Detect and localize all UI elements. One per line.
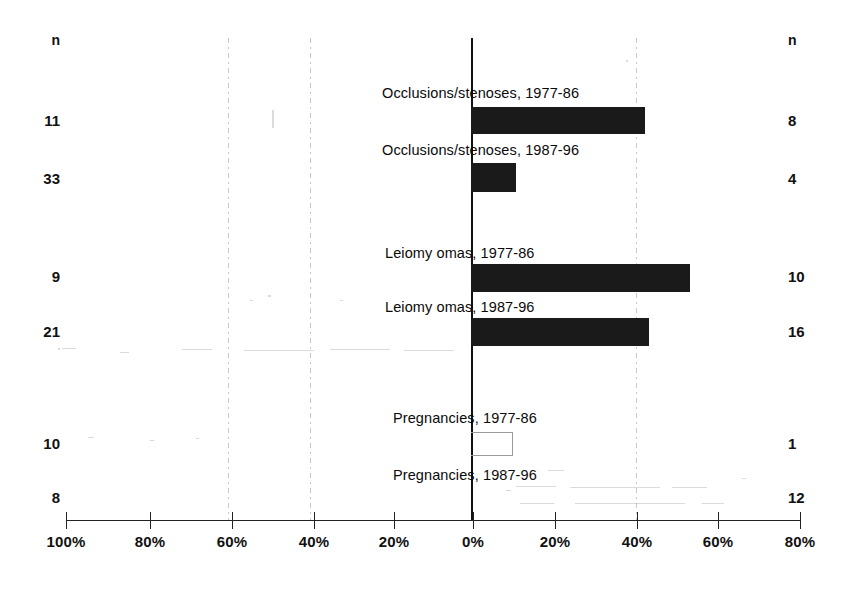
x-tick-label-40-right: 40% — [602, 533, 672, 550]
x-tick-label-0: 0% — [438, 533, 508, 550]
x-tick-20-right — [555, 512, 556, 529]
chart-figure: n n Occlusions/stenoses, 1977-86 11 8 Oc… — [0, 0, 848, 593]
bar-occlusions-1977-86 — [471, 107, 645, 134]
x-tick-label-20-left: 20% — [359, 533, 429, 550]
x-tick-40-left — [314, 512, 315, 529]
plot-area: n n Occlusions/stenoses, 1977-86 11 8 Oc… — [0, 0, 848, 593]
x-tick-label-100-left: 100% — [31, 533, 101, 550]
n-left-leiomyomas-1987-96: 21 — [0, 323, 60, 340]
n-right-pregnancies-1977-86: 1 — [788, 435, 848, 452]
x-tick-80-right — [800, 512, 801, 529]
n-left-pregnancies-1977-86: 10 — [0, 435, 60, 452]
bar-label-pregnancies-1987-96: Pregnancies, 1987-96 — [393, 467, 537, 483]
n-right-leiomyomas-1987-96: 16 — [788, 323, 848, 340]
x-tick-label-60-right: 60% — [683, 533, 753, 550]
n-left-occlusions-1987-96: 33 — [0, 170, 60, 187]
bar-leiomyomas-1977-86 — [471, 264, 690, 292]
bar-label-occlusions-1987-96: Occlusions/stenoses, 1987-96 — [382, 142, 579, 158]
n-right-leiomyomas-1977-86: 10 — [788, 268, 848, 285]
x-tick-40-right — [637, 512, 638, 529]
x-tick-60-right — [718, 512, 719, 529]
bar-pregnancies-1977-86 — [471, 432, 513, 456]
bar-label-leiomyomas-1987-96: Leiomy omas, 1987-96 — [385, 299, 535, 315]
n-right-occlusions-1977-86: 8 — [788, 112, 848, 129]
x-tick-label-20-right: 20% — [520, 533, 590, 550]
x-tick-label-60-left: 60% — [197, 533, 267, 550]
bar-label-occlusions-1977-86: Occlusions/stenoses, 1977-86 — [382, 85, 579, 101]
x-tick-100-left — [66, 512, 67, 529]
x-tick-label-80-left: 80% — [115, 533, 185, 550]
n-column-header-left: n — [0, 32, 60, 48]
bar-occlusions-1987-96 — [471, 163, 516, 192]
gridline-40-left — [310, 38, 311, 520]
x-tick-label-80-right: 80% — [765, 533, 835, 550]
bar-leiomyomas-1987-96 — [471, 318, 649, 346]
n-column-header-right: n — [788, 32, 848, 48]
x-tick-60-left — [232, 512, 233, 529]
n-left-leiomyomas-1977-86: 9 — [0, 268, 60, 285]
x-tick-label-40-left: 40% — [279, 533, 349, 550]
x-axis-line — [66, 520, 801, 521]
n-left-pregnancies-1987-96: 8 — [0, 489, 60, 506]
gridline-60-left — [228, 38, 229, 520]
n-left-occlusions-1977-86: 11 — [0, 112, 60, 129]
x-tick-0 — [473, 512, 474, 529]
n-right-occlusions-1987-96: 4 — [788, 170, 848, 187]
n-right-pregnancies-1987-96: 12 — [788, 489, 848, 506]
bar-label-leiomyomas-1977-86: Leiomy omas, 1977-86 — [385, 245, 535, 261]
x-tick-20-left — [394, 512, 395, 529]
bar-label-pregnancies-1977-86: Pregnancies, 1977-86 — [393, 410, 537, 426]
x-tick-80-left — [150, 512, 151, 529]
